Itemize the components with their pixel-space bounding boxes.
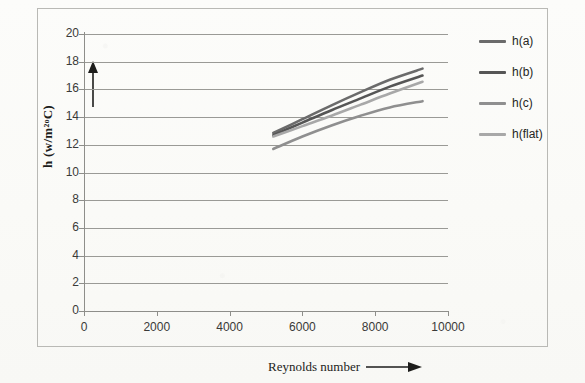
x-axis-line: [84, 311, 449, 312]
y-tick-label: 0: [39, 303, 79, 317]
y-tick-label: 12: [39, 137, 79, 151]
clipped-header-text: · · ·: [0, 0, 585, 7]
legend-item-hc[interactable]: h(c): [479, 96, 543, 110]
series-line-hflat: [273, 82, 422, 137]
legend-swatch-icon: [479, 102, 506, 105]
x-tick-label: 2000: [143, 320, 170, 334]
y-tick-label: 4: [39, 248, 79, 262]
right-arrow-icon: [366, 361, 422, 373]
series-lines: [84, 34, 448, 311]
y-tick-label: 2: [39, 275, 79, 289]
legend-swatch-icon: [479, 71, 506, 74]
x-tick-mark: [375, 311, 376, 316]
legend-label: h(b): [512, 65, 533, 79]
chart-frame: h (w/m²ᵒC) 02468101214161820 02000400060…: [37, 8, 548, 347]
x-tick-label: 0: [81, 320, 88, 334]
legend-label: h(c): [512, 96, 533, 110]
legend-swatch-icon: [479, 40, 506, 43]
x-axis-title: Reynolds number: [268, 359, 422, 375]
series-line-ha: [273, 69, 422, 133]
x-tick-label: 8000: [362, 320, 389, 334]
y-tick-label: 6: [39, 220, 79, 234]
y-tick-label: 8: [39, 192, 79, 206]
plot-area: [84, 34, 448, 311]
x-axis-title-text: Reynolds number: [268, 359, 360, 375]
legend-label: h(a): [512, 34, 533, 48]
x-tick-label: 4000: [216, 320, 243, 334]
legend-item-hflat[interactable]: h(flat): [479, 127, 543, 141]
y-tick-label: 14: [39, 109, 79, 123]
legend-item-hb[interactable]: h(b): [479, 65, 543, 79]
legend: h(a)h(b)h(c)h(flat): [479, 34, 543, 141]
legend-label: h(flat): [512, 127, 543, 141]
legend-swatch-icon: [479, 133, 506, 136]
x-tick-label: 10000: [431, 320, 464, 334]
y-tick-label: 18: [39, 54, 79, 68]
x-tick-mark: [230, 311, 231, 316]
x-tick-mark: [157, 311, 158, 316]
x-tick-mark: [448, 311, 449, 316]
x-tick-mark: [302, 311, 303, 316]
y-tick-label: 20: [39, 26, 79, 40]
y-tick-label: 10: [39, 165, 79, 179]
x-tick-mark: [84, 311, 85, 316]
legend-item-ha[interactable]: h(a): [479, 34, 543, 48]
x-tick-label: 6000: [289, 320, 316, 334]
y-tick-label: 16: [39, 81, 79, 95]
